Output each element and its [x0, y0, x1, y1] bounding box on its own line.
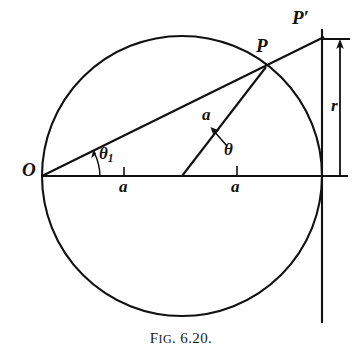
label-angle-theta-one-subscript: 1 [108, 152, 114, 165]
label-radius-r: r [331, 97, 338, 114]
label-point-P-prime-letter: P [292, 7, 304, 28]
figure-container: O P P′ r θ1 θ a a a Fig. 6.20. [0, 0, 362, 363]
secant-line-O-to-Pprime [42, 37, 324, 176]
label-point-P: P [256, 36, 268, 55]
label-length-a-right: a [231, 178, 240, 195]
label-point-P-prime-mark: ′ [304, 7, 309, 28]
figure-caption: Fig. 6.20. [0, 330, 362, 347]
label-angle-theta: θ [224, 141, 233, 158]
label-length-a-left: a [119, 178, 128, 195]
geometry-diagram [0, 0, 362, 363]
radius-line-center-to-P [182, 67, 266, 176]
label-angle-theta-one: θ1 [99, 145, 114, 164]
label-length-a-radius: a [202, 106, 211, 123]
figure-caption-number: . 6.20. [172, 330, 212, 346]
label-point-P-prime: P′ [292, 8, 309, 27]
label-origin-O: O [22, 160, 36, 179]
figure-caption-smallcaps: ig [158, 332, 171, 346]
label-angle-theta-one-letter: θ [99, 144, 108, 163]
